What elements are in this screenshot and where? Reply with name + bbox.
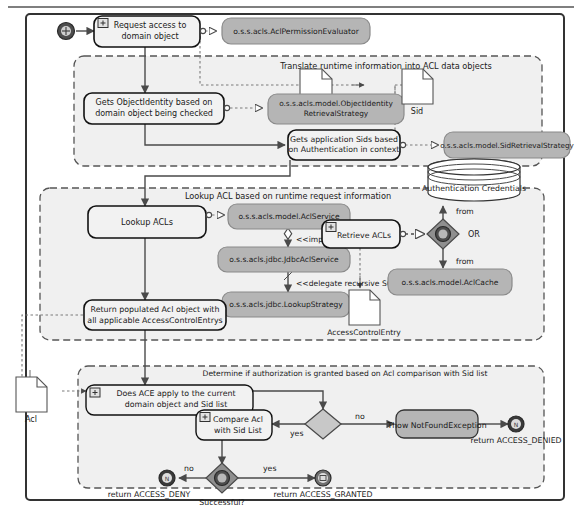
note-accesscontrolentry-label: AccessControlEntry <box>327 328 401 337</box>
action-gets-objectidentity-line1: Gets ObjectIdentity based on <box>96 98 213 107</box>
action-request-access-line1: Request access to <box>114 21 187 30</box>
end-access-granted-label: return ACCESS_GRANTED <box>273 490 372 499</box>
pin-request-access <box>200 28 205 33</box>
group-lookup-label: Lookup ACL based on runtime request info… <box>185 191 391 201</box>
class-oistrategy-line1: o.s.s.acls.model.ObjectIdentity <box>279 99 393 108</box>
note-acl-label: Acl <box>25 415 37 424</box>
note-sid-label: Sid <box>411 107 423 116</box>
class-jdbcaclservice[interactable]: o.s.s.acls.jdbc.JdbcAclService <box>218 247 350 272</box>
action-lookup-acls-label: Lookup ACLs <box>121 217 173 227</box>
action-throw-notfound-label: Thow NotFoundException <box>386 421 486 430</box>
action-retrieve-acls-label: Retrieve ACLs <box>337 231 391 240</box>
decision-successful-label: Successful? <box>199 498 244 507</box>
end-access-denied-label: return ACCESS_DENIED <box>470 436 561 445</box>
pin-lookup-acls <box>206 212 211 217</box>
action-gets-sids-line2: on Authentication in context <box>289 145 400 154</box>
action-return-acl-line2: all applicable AccessControlEntrys <box>87 316 222 325</box>
class-lookupstrategy[interactable]: o.s.s.acls.jdbc.LookupStrategy <box>222 292 350 317</box>
action-request-access-line2: domain object <box>121 32 178 41</box>
pin-gets-objectidentity <box>224 105 229 110</box>
label-yes-granted: yes <box>263 464 276 473</box>
uml-activity-diagram: Translate runtime information into ACL d… <box>0 0 582 525</box>
datastore-auth-credentials: Authentication Credentials <box>422 159 526 201</box>
class-aclpermissionevaluator[interactable]: o.s.s.acls.AclPermissionEvaluator <box>222 18 370 44</box>
subprocess-marker-icon <box>98 19 108 28</box>
action-lookup-acls[interactable]: Lookup ACLs <box>88 206 212 238</box>
action-compare-acl-line1: Compare Acl <box>213 415 263 424</box>
end-deny-glyph: N <box>165 475 170 482</box>
action-does-ace-line2: domain object and Sid list <box>125 400 228 409</box>
action-compare-acl-line2: with Sid List <box>214 426 262 435</box>
group-determine-label: Determine if authorization is granted ba… <box>203 369 488 378</box>
class-aclcache[interactable]: o.s.s.acls.model.AclCache <box>388 269 512 295</box>
decision-or-label: OR <box>468 230 480 239</box>
label-from-top: from <box>456 207 474 216</box>
subprocess-marker-icon-doesace <box>90 388 100 397</box>
action-does-ace-line1: Does ACE apply to the current <box>116 389 235 398</box>
pin-gets-sids <box>400 142 405 147</box>
class-sidretrievalstrategy-label: o.s.s.acls.model.SidRetrievalStrategy <box>440 141 574 150</box>
subprocess-marker-icon-retrieve <box>326 223 336 232</box>
label-yes-compare: yes <box>290 429 303 438</box>
class-lookupstrategy-label: o.s.s.acls.jdbc.LookupStrategy <box>229 300 343 309</box>
label-no-notfound: no <box>355 412 365 421</box>
datastore-auth-credentials-label: Authentication Credentials <box>422 184 526 193</box>
action-throw-notfound[interactable]: Thow NotFoundException <box>386 410 486 438</box>
label-no-deny: no <box>184 464 194 473</box>
action-return-acl-line1: Return populated Acl object with <box>91 305 220 314</box>
end-denied-glyph: N <box>514 421 519 428</box>
pin-retrieve-acls <box>400 231 405 236</box>
diagram-page: Translate runtime information into ACL d… <box>0 0 582 525</box>
end-access-deny-label: return ACCESS_DENY <box>108 490 191 499</box>
action-gets-sids-line1: Gets application Sids based <box>290 135 398 144</box>
action-gets-objectidentity-line2: domain object being checked <box>95 109 213 118</box>
class-aclservice-label: o.s.s.acls.model.AclService <box>238 212 340 221</box>
action-retrieve-acls[interactable]: Retrieve ACLs <box>322 220 406 248</box>
class-aclcache-label: o.s.s.acls.model.AclCache <box>402 278 499 287</box>
class-oistrategy-line2: RetrievalStrategy <box>304 109 369 118</box>
subprocess-marker-icon-compare <box>200 413 210 422</box>
class-jdbcaclservice-label: o.s.s.acls.jdbc.JdbcAclService <box>229 255 339 264</box>
class-sidretrievalstrategy[interactable]: o.s.s.acls.model.SidRetrievalStrategy <box>440 132 574 158</box>
class-aclpermissionevaluator-label: o.s.s.acls.AclPermissionEvaluator <box>233 27 359 36</box>
label-from-bottom: from <box>456 257 474 266</box>
start-node[interactable] <box>58 23 75 40</box>
